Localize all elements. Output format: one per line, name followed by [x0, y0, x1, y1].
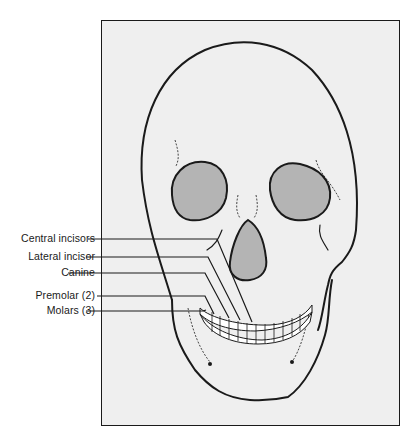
- leader-molars: [86, 310, 206, 311]
- leader-lines: [68, 239, 252, 322]
- label-molars: Molars (3): [47, 304, 95, 316]
- right-orbit: [270, 163, 330, 220]
- label-canine: Canine: [61, 266, 95, 278]
- leader-central-incisors: [88, 239, 252, 322]
- label-lateral-incisor: Lateral incisor: [28, 250, 95, 262]
- left-orbit: [172, 162, 227, 220]
- skull-illustration: [0, 0, 420, 446]
- nasal-cavity: [230, 220, 267, 280]
- label-premolar: Premolar (2): [35, 289, 95, 301]
- label-central-incisors: Central incisors: [21, 232, 95, 244]
